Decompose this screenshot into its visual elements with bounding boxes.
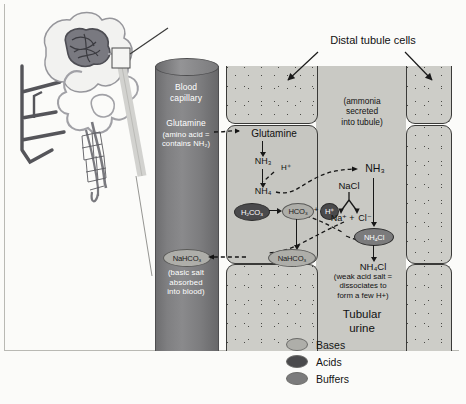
legend-swatch-bases xyxy=(286,338,308,351)
tubular-urine-label: Tubular urine xyxy=(329,308,395,335)
diagram-canvas: Blood capillary Glutamine (amino acid = … xyxy=(0,0,466,404)
legend-label-acids: Acids xyxy=(316,356,342,368)
legend-item-bases: Bases xyxy=(286,336,416,353)
legend: Bases Acids Buffers xyxy=(286,336,416,387)
nh4cl-note: (weak acid salt = dissociates to form a … xyxy=(319,272,407,300)
nh4cl-label: NH₄Cl xyxy=(353,261,393,272)
legend-swatch-acids xyxy=(286,355,308,368)
na-plus-label: Na⁺ xyxy=(329,214,349,223)
cl-minus-label: Cl⁻ xyxy=(355,214,375,223)
nh4cl-molecule: NH₄Cl xyxy=(354,228,394,246)
legend-swatch-buffers xyxy=(286,372,308,385)
legend-label-buffers: Buffers xyxy=(316,373,349,385)
legend-item-acids: Acids xyxy=(286,353,416,370)
legend-item-buffers: Buffers xyxy=(286,370,416,387)
legend-label-bases: Bases xyxy=(316,339,345,351)
